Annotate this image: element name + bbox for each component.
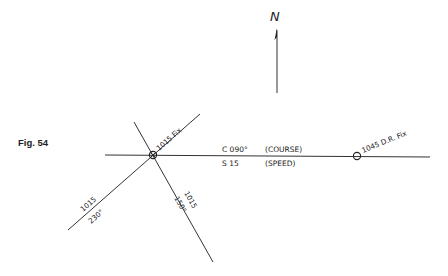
dr-fix-marker-icon	[353, 152, 360, 159]
dr-fix-label: 1045 D.R. Fix	[360, 128, 408, 154]
north-symbol: N	[270, 9, 280, 24]
speed-label: S 15	[222, 159, 239, 168]
speed-note: (SPEED)	[265, 159, 295, 168]
navigation-plot: N 1015 Fix 1045 D.R. Fix C 090° (COURSE)…	[0, 0, 448, 276]
lop-230-bearing: 230°	[86, 207, 105, 225]
north-arrow-icon: N	[270, 9, 280, 93]
course-label: C 090°	[222, 145, 248, 154]
lop-150-line	[134, 122, 213, 262]
fix-label: 1015 Fix	[154, 125, 183, 152]
course-note: (COURSE)	[265, 145, 302, 154]
